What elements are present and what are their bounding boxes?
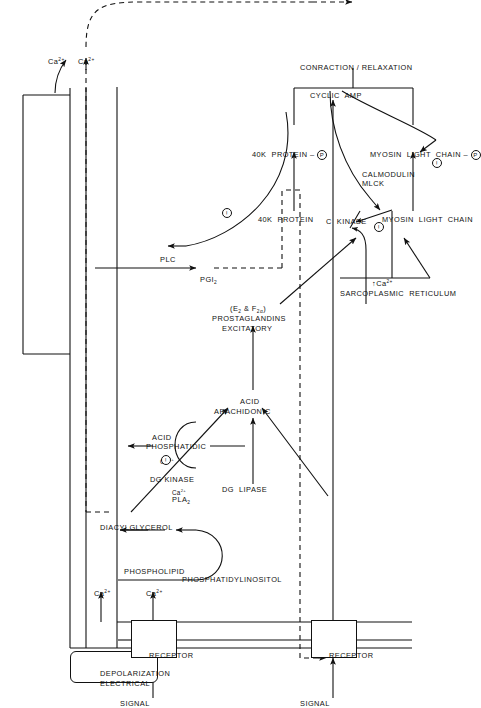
arachidonic-acid-label-line2: ACID [240, 398, 259, 407]
calcium-label-depolarization: Ca2+ [94, 588, 111, 599]
mlc-inhibition-symbol: − [432, 158, 442, 168]
dg-lipase-label: DG LIPASE [222, 486, 267, 495]
electrical-depolarization-label-line1: ELECTRICAL [100, 680, 150, 689]
protein-40k-phospho-label: 40K PROTEIN – P [252, 150, 327, 160]
plc-inhibition-symbol: − [222, 208, 232, 218]
myosin-light-chain-label: MYOSIN LIGHT CHAIN [382, 216, 473, 225]
sr-calcium-label: ↑Ca2+ [372, 278, 393, 289]
phosphatidylinositol-label: PHOSPHATIDYLINOSITOL [182, 576, 282, 585]
myosin-light-chain-phospho-label: MYOSIN LIGHT CHAIN – P [370, 150, 481, 160]
pla2-calcium-label: Ca2+ [172, 487, 186, 498]
excitatory-prostaglandins-label-line1: EXCITATORY [222, 325, 272, 334]
sarcoplasmic-reticulum-label: SARCOPLASMIC RETICULUM [340, 290, 456, 299]
dg-kinase-minus-symbol: − [161, 455, 171, 465]
calcium-label-membrane-upper: Ca2+ [48, 56, 65, 67]
receptor-label-bottom: RECEPTOR [329, 652, 374, 661]
contraction-relaxation-label: CONRACTION / RELAXATION [300, 64, 412, 73]
calmodulin-label: CALMODULIN [362, 171, 415, 180]
cyclic-amp-label: CYCLIC AMP [310, 92, 362, 101]
c-kinase-label: C KINASE [326, 218, 367, 227]
mlck-label: MLCK [362, 180, 384, 189]
plc-label: PLC [160, 256, 176, 265]
calcium-label-membrane-lower: Ca2+ [78, 56, 95, 67]
phospholipid-label: PHOSPHOLIPID [124, 568, 185, 577]
phosphatidic-acid-label-line2: ACID [152, 434, 171, 443]
arachidonic-acid-label-line1: ARACHIDONIC [214, 408, 271, 417]
signal-label-bottom: SIGNAL [300, 700, 330, 708]
electrical-depolarization-label-line2: DEPOLARIZATION [100, 670, 170, 679]
phosphatidic-acid-label-line1: PHOSPHATIDIC [146, 443, 206, 452]
dg-kinase-label: DG KINASE [150, 476, 194, 485]
calcium-label-receptor: Ca2+ [146, 588, 163, 599]
pgi2-label: PGI2 [200, 276, 217, 288]
protein-40k-label: 40K PROTEIN [258, 216, 314, 225]
pla2-label: PLA2 [172, 496, 190, 508]
receptor-label-top: RECEPTOR [149, 652, 194, 661]
diacylglycerol-label: DIACYLGLYCEROL [100, 524, 173, 533]
signal-label-top: SIGNAL [120, 700, 150, 708]
excitatory-prostaglandins-label-line3: (E2 & F2α) [230, 305, 266, 317]
